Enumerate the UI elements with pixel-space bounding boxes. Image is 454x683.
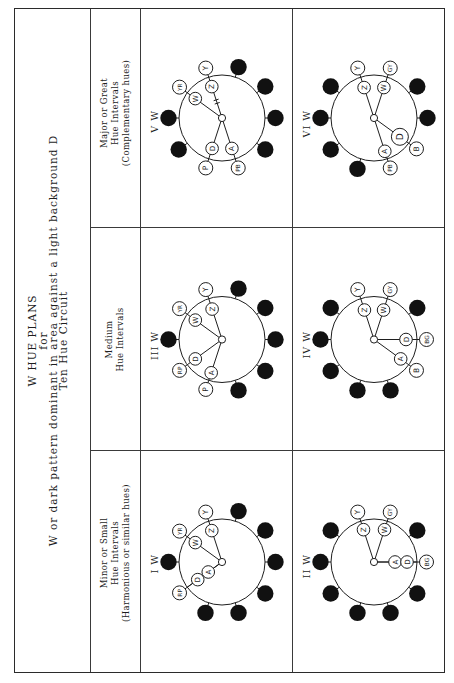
hue-label: BG: [420, 555, 434, 569]
unused-hue-dot: [160, 331, 176, 347]
unused-hue-dot: [160, 554, 176, 570]
column-header-line: Major or Great: [99, 78, 110, 148]
hue-label: RP: [173, 363, 187, 377]
element-node: D: [189, 353, 202, 366]
element-node: A: [379, 145, 392, 158]
center-point: [370, 558, 377, 565]
element-node: A: [226, 142, 239, 155]
hue-label-text: RP: [177, 589, 183, 597]
element-node: Z: [206, 303, 219, 316]
element-node: D: [391, 128, 408, 145]
hue-label-text: B: [412, 146, 421, 151]
diagram-cell-iii-w: III W YRYPRPWZDA: [140, 228, 292, 451]
hue-circuit-diagram: YRYRPWZAD: [140, 451, 292, 673]
hue-label-text: PB: [235, 164, 241, 171]
diagram-cell-v-w: V W YRYPBPWZDA: [140, 8, 292, 228]
hue-label-text: YR: [177, 305, 183, 314]
hue-label-text: PB: [387, 164, 393, 171]
title-subtitle: Ten Hue Circuit: [57, 8, 69, 673]
hue-label-text: GY: [387, 508, 393, 516]
element-node: D: [400, 333, 413, 346]
unused-hue-dot: [267, 110, 283, 126]
column-header-line: Medium: [104, 321, 115, 359]
unused-hue-dot: [230, 280, 246, 296]
hue-label-text: YR: [177, 527, 183, 536]
center-point: [370, 336, 377, 343]
hue-label-text: YR: [177, 83, 183, 92]
hue-label: GY: [383, 505, 397, 519]
element-node-text: W: [191, 317, 200, 324]
element-node: W: [189, 536, 202, 549]
hue-circuit-diagram: YRYPBPWZDA: [140, 8, 292, 228]
element-node-text: Z: [207, 528, 216, 533]
element-node: W: [189, 314, 202, 327]
hue-label: RP: [173, 586, 187, 600]
element-node-text: A: [207, 370, 216, 375]
element-node: A: [389, 556, 402, 569]
element-node-text: W: [379, 306, 388, 313]
element-node-text: D: [395, 133, 405, 140]
element-node-text: D: [402, 336, 411, 342]
hue-label: Y: [351, 61, 365, 75]
column-header-line: Hue Intervals: [110, 521, 121, 585]
hue-circuit-diagram: YRYPRPWZDA: [140, 228, 292, 451]
hue-label: YR: [173, 524, 187, 538]
unused-hue-dot: [257, 300, 273, 316]
element-node: W: [378, 81, 391, 94]
hue-label: GY: [383, 61, 397, 75]
element-node-text: A: [204, 569, 213, 574]
element-node-text: W: [191, 95, 200, 102]
unused-hue-dot: [382, 605, 398, 621]
element-node-text: Z: [360, 85, 369, 90]
element-node-text: Z: [208, 307, 217, 312]
hue-label: Y: [351, 505, 365, 519]
hue-label-text: P: [201, 387, 210, 392]
unused-hue-dot: [419, 110, 435, 126]
hue-label: YR: [173, 80, 187, 94]
element-node-text: Z: [207, 84, 216, 89]
hue-label: Y: [199, 61, 213, 75]
hue-label-text: GY: [387, 285, 393, 293]
column-header-major: Major or Great Hue Intervals (Complement…: [90, 8, 140, 228]
center-point: [218, 114, 225, 121]
diagram-cell-iv-w: IV W YGYBGBZWDA: [292, 228, 445, 451]
unused-hue-dot: [230, 382, 246, 398]
element-node: A: [202, 566, 215, 579]
unused-hue-dot: [409, 300, 425, 316]
element-node: W: [378, 523, 391, 536]
element-node: A: [205, 366, 218, 379]
hue-label: BG: [420, 333, 434, 347]
unused-hue-dot: [409, 585, 425, 601]
element-node-text: D: [193, 576, 202, 582]
unused-hue-dot: [267, 331, 283, 347]
unused-hue-dot: [257, 78, 273, 94]
unused-hue-dot: [257, 363, 273, 379]
column-header-note: (Complementary hues): [121, 60, 132, 166]
unused-hue-dot: [349, 161, 365, 177]
column-header-line: Hue Intervals: [110, 81, 121, 145]
hue-label: P: [199, 382, 213, 396]
column-header-note: (Harmonious or similar hues): [121, 484, 132, 622]
unused-hue-dot: [409, 522, 425, 538]
hue-label-text: B: [412, 368, 421, 373]
unused-hue-dot: [230, 605, 246, 621]
unused-hue-dot: [312, 331, 328, 347]
unused-hue-dot: [312, 554, 328, 570]
unused-hue-dot: [160, 110, 176, 126]
element-node-text: D: [208, 145, 217, 151]
element-node-text: Z: [359, 527, 368, 532]
unused-hue-dot: [323, 363, 339, 379]
element-node-text: A: [396, 356, 405, 361]
element-node-text: A: [391, 559, 400, 564]
title-band: W HUE PLANS for W or dark pattern domina…: [14, 8, 90, 673]
diagram-cell-vi-w: VI W YGYBPBZWDA: [292, 8, 445, 228]
element-node: D: [401, 556, 414, 569]
element-node: A: [394, 353, 407, 366]
unused-hue-dot: [257, 141, 273, 157]
hue-label: PB: [231, 161, 245, 175]
diagram-cell-i-w: I W YRYRPWZAD: [140, 451, 292, 673]
unused-hue-dot: [323, 78, 339, 94]
hue-label: Y: [199, 283, 213, 297]
element-node-text: A: [227, 146, 236, 151]
column-header-line: Hue Intervals: [115, 307, 126, 371]
